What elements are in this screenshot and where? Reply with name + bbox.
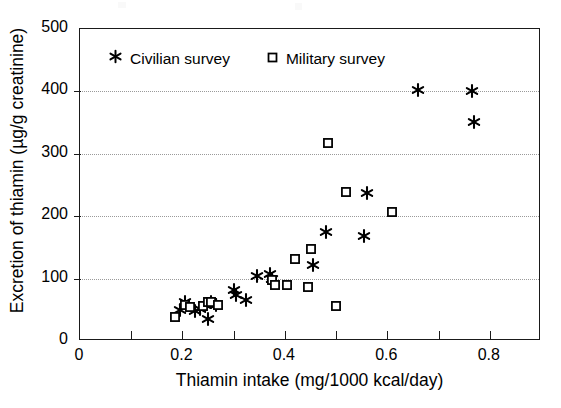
x-tickmark-minor	[234, 331, 235, 339]
y-tickmark	[74, 279, 81, 280]
y-tickmark	[74, 154, 81, 155]
data-point-civilian	[464, 84, 479, 99]
y-axis-title-wrap: Excretion of thiamin (µg/g creatinine)	[0, 0, 36, 340]
gridline	[80, 216, 539, 217]
data-point-military	[304, 242, 317, 255]
x-tick-label: 0.4	[260, 346, 308, 364]
y-tickmark	[74, 91, 81, 92]
data-point-military	[340, 186, 353, 199]
data-point-civilian	[239, 292, 254, 307]
legend-label-military: Military survey	[286, 50, 385, 68]
gridline	[80, 279, 539, 280]
data-point-civilian	[411, 83, 426, 98]
scan-noise	[118, 2, 126, 8]
x-tickmark-minor	[336, 331, 337, 339]
data-point-military	[184, 300, 197, 313]
data-point-civilian	[467, 114, 482, 129]
data-point-civilian	[306, 258, 321, 273]
y-tick-label: 400	[22, 80, 68, 98]
plot-area: Civilian survey Military survey	[79, 28, 540, 340]
y-tick-label: 500	[22, 18, 68, 36]
data-point-military	[212, 298, 225, 311]
data-point-civilian	[359, 186, 374, 201]
x-tick-label: 0.8	[465, 346, 513, 364]
x-axis-title: Thiamin intake (mg/1000 kcal/day)	[176, 370, 443, 390]
x-axis-title-wrap: Thiamin intake (mg/1000 kcal/day)	[79, 370, 540, 391]
y-tick-label: 300	[22, 143, 68, 161]
data-point-military	[281, 279, 294, 292]
x-tickmark-major	[387, 331, 388, 339]
x-tickmark-major	[285, 331, 286, 339]
y-tick-label: 200	[22, 205, 68, 223]
legend-label-civilian: Civilian survey	[130, 50, 230, 68]
asterisk-icon	[108, 49, 123, 68]
data-point-military	[168, 311, 181, 324]
data-point-military	[268, 279, 281, 292]
x-tickmark-minor	[439, 331, 440, 339]
open-square-icon	[266, 50, 279, 68]
data-point-military	[289, 252, 302, 265]
x-tickmark-minor	[131, 331, 132, 339]
data-point-civilian	[357, 228, 372, 243]
gridline	[80, 154, 539, 155]
x-tick-label: 0.6	[362, 346, 410, 364]
legend-entry-military: Military survey	[266, 50, 385, 68]
data-point-civilian	[201, 311, 216, 326]
x-tickmark-major	[182, 331, 183, 339]
x-tick-label: 0.2	[157, 346, 205, 364]
scatter-plot-figure: Excretion of thiamin (µg/g creatinine) T…	[0, 0, 561, 408]
legend-entry-civilian: Civilian survey	[108, 49, 230, 68]
x-tickmark-major	[490, 331, 491, 339]
data-point-military	[322, 136, 335, 149]
x-tick-label: 0	[55, 346, 103, 364]
data-point-military	[386, 205, 399, 218]
legend: Civilian survey Military survey	[108, 49, 385, 68]
y-tickmark	[74, 216, 81, 217]
y-tick-label: 100	[22, 268, 68, 286]
data-point-military	[330, 300, 343, 313]
data-point-civilian	[318, 225, 333, 240]
scan-noise	[295, 3, 302, 10]
data-point-military	[301, 281, 314, 294]
